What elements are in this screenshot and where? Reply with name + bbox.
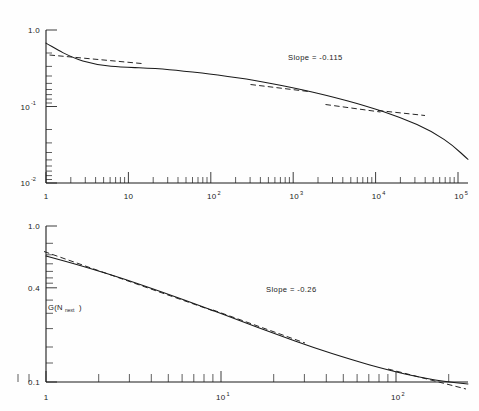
svg-text:10: 10 (21, 103, 31, 112)
svg-text:10: 10 (21, 179, 31, 188)
svg-text:10: 10 (289, 192, 299, 201)
svg-text:-1: -1 (31, 100, 36, 106)
upper-slope-annotation: Slope = -0.115 (288, 53, 343, 62)
lower-fit-segment-right (388, 369, 466, 389)
svg-text:10: 10 (391, 393, 401, 402)
svg-text:10: 10 (216, 393, 226, 402)
upper-xtick-label-1: 10 (124, 192, 134, 201)
svg-text:10: 10 (372, 192, 382, 201)
figure-svg: 1.0 10 -1 10 -2 (0, 0, 479, 411)
lower-ytick-label-bot: 0.1 (28, 378, 40, 387)
upper-xtick-label-3: 10 3 (289, 190, 303, 201)
upper-xtick-label-2: 10 2 (207, 190, 221, 201)
upper-y-minor-ticks (46, 53, 52, 180)
lower-ytick-label-mid: 0.4 (28, 284, 40, 293)
upper-fit-segment-low (50, 55, 142, 64)
svg-text:3: 3 (300, 190, 303, 196)
upper-xtick-label-5: 10 5 (454, 190, 468, 201)
svg-text:10: 10 (454, 192, 464, 201)
svg-text:next: next (65, 307, 75, 313)
lower-data-curve (46, 256, 468, 384)
lower-xtick-label-2: 10 2 (391, 391, 405, 402)
lower-y-axis-label: G(N next ) (48, 303, 82, 313)
svg-text:10: 10 (124, 192, 134, 201)
lower-panel: 1.0 0.4 0.1 G(N next ) (18, 222, 468, 402)
upper-ytick-label-bot: 10 -2 (21, 176, 36, 188)
lower-slope-annotation: Slope = -0.26 (266, 285, 317, 294)
svg-text:-2: -2 (31, 176, 36, 182)
svg-text:1: 1 (44, 192, 49, 201)
upper-ytick-label-mid: 10 -1 (21, 100, 36, 112)
upper-ytick-label-top: 1.0 (28, 26, 40, 35)
svg-text:5: 5 (465, 190, 468, 196)
svg-text:2: 2 (218, 190, 221, 196)
lower-ytick-label-top: 1.0 (28, 222, 40, 231)
lower-fit-segment-left (44, 252, 215, 312)
figure-root: 1.0 10 -1 10 -2 (0, 0, 479, 411)
lower-xtick-label-1: 10 1 (216, 391, 230, 402)
upper-fit-segment-high2 (378, 111, 425, 116)
svg-text:): ) (79, 303, 82, 312)
lower-fit-segment-mid (213, 310, 305, 343)
upper-x-major-ticks (46, 172, 458, 183)
upper-xtick-label-0: 1 (44, 192, 49, 201)
svg-text:10: 10 (207, 192, 217, 201)
upper-panel: 1.0 10 -1 10 -2 (21, 26, 469, 201)
lower-xtick-label-0: 1 (44, 393, 49, 402)
svg-text:4: 4 (382, 190, 385, 196)
svg-text:G(N: G(N (48, 303, 63, 312)
upper-xtick-label-4: 10 4 (372, 190, 386, 201)
svg-text:2: 2 (402, 391, 405, 397)
lower-x-minor-ticks (18, 374, 449, 382)
svg-text:1: 1 (227, 391, 230, 397)
upper-data-curve (46, 43, 468, 159)
